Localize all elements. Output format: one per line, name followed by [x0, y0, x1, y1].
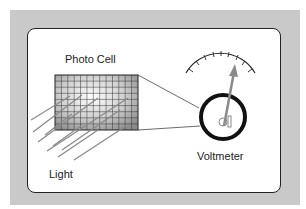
- diagram-graphic: [0, 0, 306, 209]
- light-label: Light: [49, 168, 73, 180]
- voltmeter: [201, 95, 245, 139]
- voltmeter-label: Voltmeter: [197, 150, 243, 162]
- wires: [138, 75, 200, 130]
- photo-cell: [55, 75, 138, 130]
- meter-scale: [186, 51, 255, 73]
- photo-cell-label: Photo Cell: [65, 53, 116, 65]
